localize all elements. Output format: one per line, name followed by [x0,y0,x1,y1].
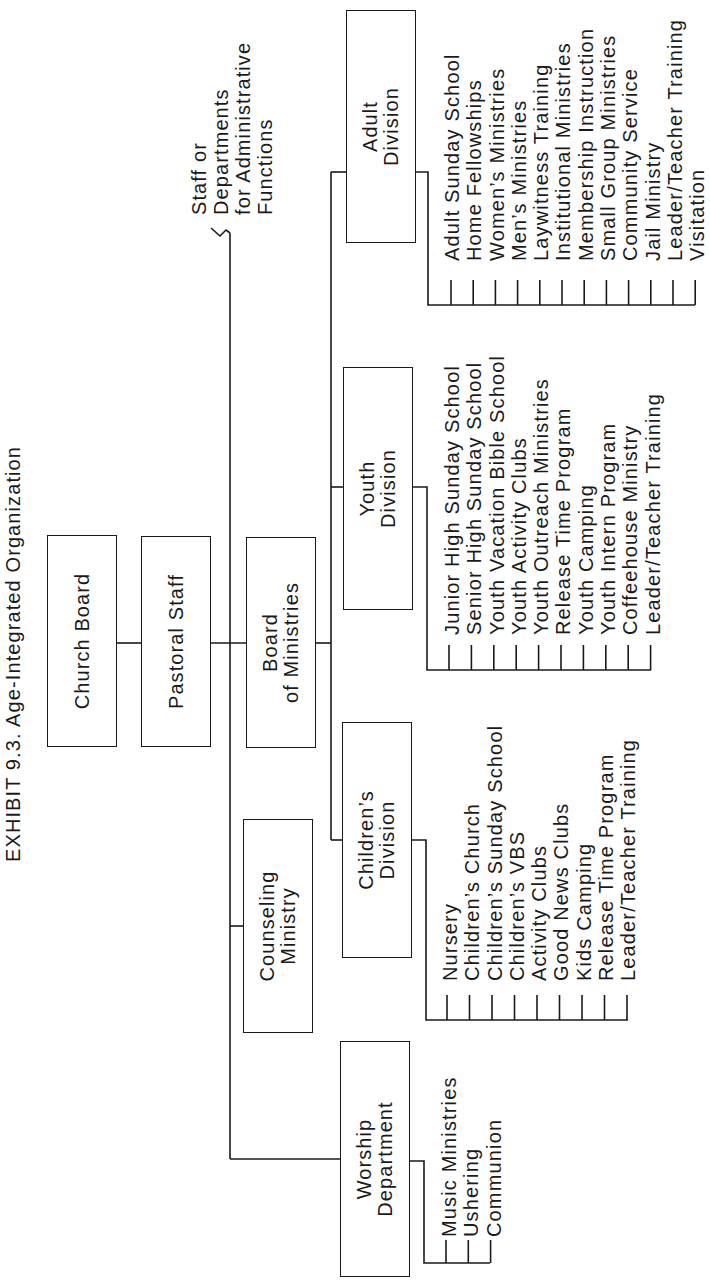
exhibit-title: EXHIBIT 9.3. Age-Integrated Organization [2,446,24,862]
childrens-ministries-list: NurseryChildren’s ChurchChildren’s Sunda… [439,725,640,981]
ministry-list-item: Home Fellowships [463,19,485,261]
ministry-list-item: Nursery [439,725,461,981]
ministry-list-item: Leader/Teacher Training [617,725,639,981]
church-board-label: Church Board [72,573,93,710]
ministry-list-item: Activity Clubs [528,725,550,981]
childrens-division-label: Children’s Division [356,790,398,890]
adult-ministries-list: Adult Sunday SchoolHome FellowshipsWomen… [441,19,709,261]
staff-note-line: Staff or [188,42,210,215]
pastoral-staff-box[interactable]: Pastoral Staff [141,536,211,747]
ministry-list-item: Visitation [686,19,708,261]
ministry-list-item: Release Time Program [595,725,617,981]
worship-ministries-list: Music MinistriesUsheringCommunion [438,1076,505,1237]
ministry-list-item: Membership Instruction [575,19,597,261]
ministry-list-item: Children’s VBS [506,725,528,981]
board-of-ministries-box[interactable]: Board of Ministries [246,537,316,748]
ministry-list-item: Laywitness Training [530,19,552,261]
ministry-list-item: Coffeehouse Ministry [619,355,641,635]
ministry-list-item: Jail Ministry [642,19,664,261]
ministry-list-item: Small Group Ministries [597,19,619,261]
worship-department-label: Worship Department [354,1101,396,1217]
youth-division-box[interactable]: Youth Division [343,367,413,610]
ministry-list-item: Youth Vacation Bible School [486,355,508,635]
ministry-list-item: Women’s Ministries [486,19,508,261]
ministry-list-item: Senior High Sunday School [463,355,485,635]
ministry-list-item: Ushering [460,1076,482,1237]
staff-note-line: Departments [210,42,232,215]
board-of-ministries-label: Board of Ministries [260,582,302,703]
ministry-list-item: Leader/Teacher Training [642,355,664,635]
ministry-list-item: Men’s Ministries [508,19,530,261]
youth-ministries-list: Junior High Sunday SchoolSenior High Sun… [441,355,664,635]
ministry-list-item: Community Service [619,19,641,261]
ministry-list-item: Good News Clubs [550,725,572,981]
ministry-list-item: Communion [483,1076,505,1237]
adult-division-label: Adult Division [360,87,402,166]
ministry-list-item: Youth Activity Clubs [508,355,530,635]
ministry-list-item: Children’s Church [461,725,483,981]
staff-note-line: Functions [254,42,276,215]
ministry-list-item: Children’s Sunday School [484,725,506,981]
church-board-box[interactable]: Church Board [47,535,117,747]
worship-department-box[interactable]: Worship Department [340,1041,410,1277]
pastoral-staff-label: Pastoral Staff [166,574,187,709]
youth-division-label: Youth Division [357,449,399,528]
counseling-ministry-label: Counseling Ministry [257,870,299,981]
staff-departments-note: Staff or Departments for Administrative … [188,42,276,215]
childrens-division-box[interactable]: Children’s Division [342,722,412,958]
ministry-list-item: Release Time Program [552,355,574,635]
ministry-list-item: Kids Camping [573,725,595,981]
ministry-list-item: Youth Camping [575,355,597,635]
ministry-list-item: Institutional Ministries [552,19,574,261]
counseling-ministry-box[interactable]: Counseling Ministry [243,819,313,1033]
adult-division-box[interactable]: Adult Division [346,10,416,243]
staff-note-line: for Administrative [232,42,254,215]
ministry-list-item: Youth Intern Program [597,355,619,635]
ministry-list-item: Leader/Teacher Training [664,19,686,261]
org-chart: EXHIBIT 9.3. Age-Integrated Organization… [0,0,710,1285]
ministry-list-item: Music Ministries [438,1076,460,1237]
ministry-list-item: Junior High Sunday School [441,355,463,635]
ministry-list-item: Adult Sunday School [441,19,463,261]
ministry-list-item: Youth Outreach Ministries [530,355,552,635]
